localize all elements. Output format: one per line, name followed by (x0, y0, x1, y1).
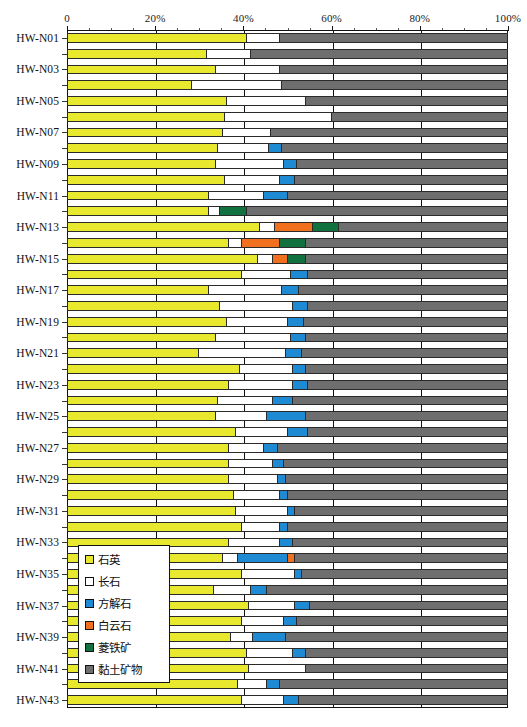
stacked-bar[interactable] (67, 254, 508, 264)
bar-segment-feldspar[interactable] (208, 192, 263, 200)
bar-segment-clay[interactable] (287, 491, 507, 499)
bar-segment-feldspar[interactable] (226, 97, 305, 105)
bar-row[interactable] (67, 112, 508, 122)
bar-segment-clay[interactable] (281, 144, 507, 152)
stacked-bar[interactable] (67, 490, 508, 500)
bar-segment-feldspar[interactable] (233, 491, 279, 499)
bar-segment-feldspar[interactable] (241, 570, 294, 578)
bar-segment-feldspar[interactable] (239, 365, 292, 373)
bar-segment-clay[interactable] (298, 286, 507, 294)
bar-segment-calcite[interactable] (279, 523, 288, 531)
bar-segment-feldspar[interactable] (208, 286, 280, 294)
bar-segment-clay[interactable] (305, 334, 507, 342)
bar-row[interactable] (67, 254, 508, 264)
bar-segment-siderite[interactable] (279, 239, 305, 247)
bar-row[interactable] (67, 348, 508, 358)
stacked-bar[interactable] (67, 396, 508, 406)
bar-row[interactable] (67, 143, 508, 153)
bar-segment-calcite[interactable] (283, 617, 296, 625)
bar-segment-quartz[interactable] (68, 412, 215, 420)
bar-segment-feldspar[interactable] (246, 34, 279, 42)
stacked-bar[interactable] (67, 175, 508, 185)
bar-row[interactable] (67, 301, 508, 311)
bar-row[interactable] (67, 427, 508, 437)
bar-segment-clay[interactable] (279, 34, 507, 42)
bar-segment-feldspar[interactable] (228, 381, 292, 389)
bar-segment-clay[interactable] (307, 428, 507, 436)
bar-segment-quartz[interactable] (68, 507, 235, 515)
stacked-bar[interactable] (67, 65, 508, 75)
bar-segment-feldspar[interactable] (208, 207, 219, 215)
bar-segment-clay[interactable] (298, 696, 507, 704)
bar-segment-calcite[interactable] (252, 633, 285, 641)
stacked-bar[interactable] (67, 191, 508, 201)
bar-segment-quartz[interactable] (68, 192, 208, 200)
stacked-bar[interactable] (67, 474, 508, 484)
bar-segment-feldspar[interactable] (198, 349, 286, 357)
bar-segment-calcite[interactable] (283, 160, 296, 168)
stacked-bar[interactable] (67, 270, 508, 280)
bar-segment-feldspar[interactable] (257, 255, 272, 263)
bar-segment-dolomite[interactable] (272, 255, 287, 263)
bar-row[interactable] (67, 490, 508, 500)
bar-row[interactable] (67, 270, 508, 280)
bar-segment-calcite[interactable] (294, 602, 309, 610)
bar-segment-feldspar[interactable] (226, 318, 287, 326)
bar-segment-feldspar[interactable] (259, 223, 274, 231)
stacked-bar[interactable] (67, 80, 508, 90)
bar-segment-feldspar[interactable] (217, 397, 272, 405)
bar-segment-calcite[interactable] (294, 570, 301, 578)
bar-segment-calcite[interactable] (287, 428, 307, 436)
bar-segment-feldspar[interactable] (224, 113, 332, 121)
bar-segment-quartz[interactable] (68, 349, 198, 357)
bar-segment-calcite[interactable] (266, 680, 279, 688)
bar-segment-feldspar[interactable] (215, 160, 283, 168)
bar-row[interactable] (67, 333, 508, 343)
bar-row[interactable] (67, 474, 508, 484)
bar-row[interactable] (67, 285, 508, 295)
stacked-bar[interactable] (67, 159, 508, 169)
bar-row[interactable] (67, 191, 508, 201)
bar-segment-dolomite[interactable] (287, 554, 294, 562)
stacked-bar[interactable] (67, 49, 508, 59)
bar-segment-feldspar[interactable] (215, 334, 290, 342)
stacked-bar[interactable] (67, 459, 508, 469)
stacked-bar[interactable] (67, 380, 508, 390)
stacked-bar[interactable] (67, 33, 508, 43)
bar-segment-calcite[interactable] (287, 318, 302, 326)
stacked-bar[interactable] (67, 143, 508, 153)
stacked-bar[interactable] (67, 96, 508, 106)
bar-segment-quartz[interactable] (68, 129, 222, 137)
bar-segment-feldspar[interactable] (228, 239, 241, 247)
bar-segment-feldspar[interactable] (222, 129, 270, 137)
bar-segment-feldspar[interactable] (241, 617, 283, 625)
bar-segment-calcite[interactable] (272, 397, 292, 405)
stacked-bar[interactable] (67, 506, 508, 516)
bar-segment-quartz[interactable] (68, 34, 246, 42)
stacked-bar[interactable] (67, 411, 508, 421)
bar-segment-calcite[interactable] (287, 507, 294, 515)
bar-segment-clay[interactable] (266, 586, 507, 594)
legend-item[interactable]: 白云石 (85, 616, 165, 634)
bar-segment-feldspar[interactable] (213, 586, 250, 594)
bar-segment-clay[interactable] (307, 271, 507, 279)
bar-segment-clay[interactable] (246, 207, 507, 215)
stacked-bar[interactable] (67, 695, 508, 705)
bar-segment-feldspar[interactable] (248, 602, 294, 610)
bar-row[interactable] (67, 80, 508, 90)
bar-segment-feldspar[interactable] (206, 50, 250, 58)
bar-segment-calcite[interactable] (283, 696, 298, 704)
bar-row[interactable] (67, 238, 508, 248)
bar-row[interactable] (67, 49, 508, 59)
bar-segment-siderite[interactable] (219, 207, 245, 215)
bar-segment-feldspar[interactable] (241, 696, 283, 704)
bar-segment-calcite[interactable] (281, 286, 299, 294)
bar-row[interactable] (67, 222, 508, 232)
bar-segment-clay[interactable] (305, 239, 507, 247)
bar-segment-clay[interactable] (301, 349, 507, 357)
bar-segment-quartz[interactable] (68, 523, 241, 531)
bar-segment-quartz[interactable] (68, 176, 224, 184)
bar-row[interactable] (67, 443, 508, 453)
stacked-bar[interactable] (67, 522, 508, 532)
bar-segment-clay[interactable] (281, 81, 507, 89)
